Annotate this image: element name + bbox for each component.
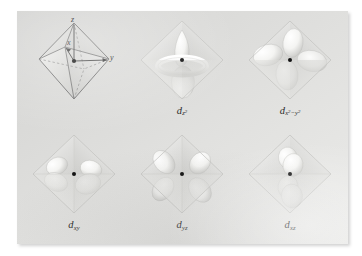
reference-octahedron-stage: z x y — [19, 13, 129, 107]
caption-dz2: dz2 — [127, 105, 237, 116]
cell-orbital-dyz: dyz — [127, 127, 237, 243]
caption-dx2y2-subscript: x2−y2 — [285, 109, 300, 116]
central-atom-dot — [180, 172, 184, 176]
caption-dyz: dyz — [127, 219, 237, 231]
caption-dxz: dxz — [235, 219, 345, 231]
dyz-art — [127, 127, 237, 221]
dxz-stage — [235, 127, 345, 221]
caption-dx2y2: dx2−y2 — [235, 105, 345, 116]
cell-orbital-dxz: dxz — [235, 127, 345, 243]
central-atom-dot — [72, 59, 76, 63]
cell-orbital-dz2: dz2 — [127, 13, 237, 129]
cell-reference-octahedron: z x y — [19, 13, 129, 129]
dxy-art — [19, 127, 129, 221]
figure-root: z x y — [0, 0, 362, 256]
axis-label-x: x — [67, 38, 71, 47]
cell-orbital-dxy: dxy — [19, 127, 129, 243]
caption-dxy: dxy — [19, 219, 129, 231]
caption-dz2-subscript: z2 — [182, 109, 187, 116]
axis-label-y: y — [110, 53, 114, 62]
cell-orbital-dx2y2: dx2−y2 — [235, 13, 345, 129]
illustration-panel: z x y — [17, 11, 348, 244]
central-atom-dot — [72, 172, 76, 176]
dx2y2-art — [235, 13, 345, 107]
caption-dxz-subscript: xz — [290, 224, 296, 231]
caption-dxy-subscript: xy — [74, 224, 80, 231]
central-atom-dot — [288, 58, 292, 62]
central-atom-dot — [180, 58, 184, 62]
dxz-art — [235, 127, 345, 221]
central-atom-dot — [288, 172, 292, 176]
dyz-stage — [127, 127, 237, 221]
dz2-art — [127, 13, 237, 107]
orbital-grid: z x y — [17, 11, 348, 244]
dx2y2-stage — [235, 13, 345, 107]
axis-label-z: z — [71, 15, 74, 24]
caption-dyz-subscript: yz — [182, 224, 188, 231]
dxy-stage — [19, 127, 129, 221]
dz2-stage — [127, 13, 237, 107]
